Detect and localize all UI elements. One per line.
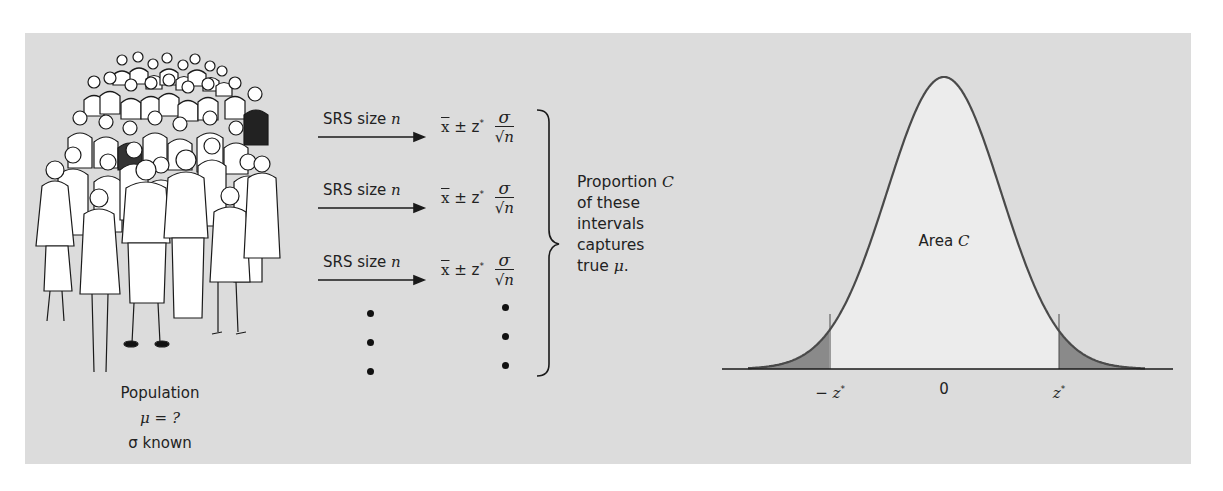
srs-label-text: SRS size: [323, 110, 391, 128]
tick-text: − z: [815, 384, 840, 402]
ellipsis-dot: [367, 339, 374, 346]
population-mean-unknown: μ = ?: [140, 409, 180, 427]
coverage-line-5: true μ.: [577, 256, 674, 277]
confidence-interval-formula: x ± z* σ √n: [441, 251, 514, 290]
tick-label-zstar: z*: [1053, 380, 1065, 402]
mu-symbol: μ = ?: [140, 409, 180, 427]
star: *: [479, 189, 484, 199]
sigma: σ: [495, 251, 514, 270]
coverage-text: true: [577, 257, 614, 275]
area-label-text: Area: [919, 232, 958, 250]
ellipsis-dot: [367, 310, 374, 317]
radical-icon: √: [495, 128, 505, 146]
population-label: Population: [121, 384, 200, 402]
radicand: n: [504, 199, 514, 217]
coverage-statement: Proportion C of these intervals captures…: [577, 172, 674, 277]
tick-label-neg-zstar: − z*: [815, 380, 845, 402]
population-sigma-known: σ known: [128, 434, 191, 452]
radical-icon: √: [495, 199, 505, 217]
ellipsis-dot: [502, 333, 509, 340]
srs-label-text: SRS size: [323, 253, 391, 271]
coverage-text: Proportion: [577, 173, 662, 191]
radical-icon: √: [495, 271, 505, 289]
left-tail-area: [748, 331, 829, 369]
sigma-over-root-n: σ √n: [495, 179, 514, 218]
tick-text: 0: [939, 380, 949, 398]
star: *: [840, 384, 845, 394]
tick-label-zero: 0: [939, 380, 949, 398]
ellipsis-dot: [502, 362, 509, 369]
plus-minus-z: ± z: [449, 261, 479, 279]
srs-label-text: SRS size: [323, 181, 391, 199]
root-n: √n: [495, 198, 514, 218]
confidence-level-var: C: [662, 173, 674, 191]
crowd-illustration: [36, 52, 280, 372]
coverage-line-3: intervals: [577, 214, 674, 235]
mu-symbol: μ: [614, 257, 624, 275]
star: *: [1061, 384, 1066, 394]
coverage-line-1: Proportion C: [577, 172, 674, 193]
srs-label: SRS size n: [323, 253, 401, 271]
curly-brace: [537, 110, 559, 376]
coverage-line-4: captures: [577, 235, 674, 256]
normal-curve-chart: [722, 77, 1173, 369]
area-label: Area C: [919, 232, 970, 250]
srs-n: n: [391, 110, 401, 128]
star: *: [479, 261, 484, 271]
srs-label: SRS size n: [323, 181, 401, 199]
radicand: n: [504, 128, 514, 146]
area-var: C: [958, 232, 969, 250]
radicand: n: [504, 271, 514, 289]
plus-minus-z: ± z: [449, 118, 479, 136]
root-n: √n: [495, 270, 514, 290]
sigma: σ: [495, 179, 514, 198]
star: *: [479, 118, 484, 128]
sigma-over-root-n: σ √n: [495, 108, 514, 147]
confidence-interval-formula: x ± z* σ √n: [441, 108, 514, 147]
ellipsis-dot: [367, 368, 374, 375]
confidence-interval-formula: x ± z* σ √n: [441, 179, 514, 218]
coverage-line-2: of these: [577, 193, 674, 214]
plus-minus-z: ± z: [449, 189, 479, 207]
center-area: [829, 77, 1059, 369]
period: .: [624, 257, 629, 275]
ellipsis-dot: [502, 304, 509, 311]
sigma-over-root-n: σ √n: [495, 251, 514, 290]
root-n: √n: [495, 127, 514, 147]
tick-text: z: [1053, 384, 1061, 402]
sigma: σ: [495, 108, 514, 127]
srs-n: n: [391, 253, 401, 271]
srs-n: n: [391, 181, 401, 199]
srs-label: SRS size n: [323, 110, 401, 128]
